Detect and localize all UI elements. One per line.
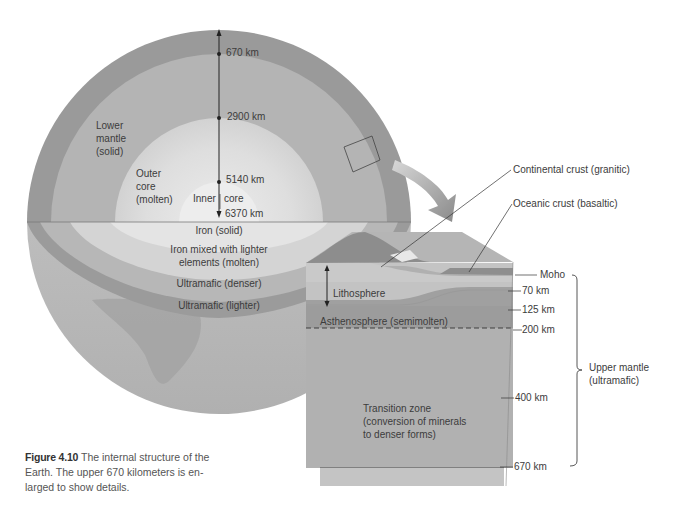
upper-mantle-line1: Upper mantle — [589, 361, 649, 374]
caption-line2: Earth. The upper 670 kilometers is en- — [25, 466, 203, 478]
inner-core-label-right: core — [224, 193, 243, 205]
iron-mixed-label-line1: Iron mixed with lighter — [159, 244, 279, 256]
iron-mixed-label-line2: elements (molten) — [159, 257, 279, 269]
transition-zone-line2: (conversion of minerals — [363, 415, 466, 428]
depth-70-label: 70 km — [522, 285, 549, 297]
caption-line3: larged to show details. — [25, 481, 129, 493]
transition-zone-line3: to denser forms) — [363, 428, 466, 441]
moho-label: Moho — [540, 269, 565, 281]
depth-label-670: 670 km — [226, 47, 259, 59]
transition-zone-line1: Transition zone — [363, 402, 466, 415]
depth-670-label: 670 km — [514, 461, 547, 473]
lower-mantle-line2: mantle — [96, 132, 126, 145]
figure-number: Figure 4.10 — [25, 451, 78, 463]
continental-crust-label: Continental crust (granitic) — [513, 164, 630, 176]
outer-core-label: Outer core (molten) — [136, 167, 173, 206]
lower-mantle-label: Lower mantle (solid) — [96, 119, 126, 158]
outer-core-line3: (molten) — [136, 193, 173, 206]
iron-solid-label: Iron (solid) — [169, 225, 269, 237]
oceanic-crust-label: Oceanic crust (basaltic) — [513, 198, 617, 210]
lithosphere-label: Lithosphere — [333, 288, 385, 300]
inner-core-label-left: Inner — [193, 193, 216, 205]
upper-mantle-label: Upper mantle (ultramafic) — [589, 361, 649, 387]
ultramafic-denser-label: Ultramafic (denser) — [159, 278, 279, 290]
depth-label-5140: 5140 km — [226, 174, 264, 186]
depth-label-2900: 2900 km — [227, 111, 265, 123]
outer-core-line2: core — [136, 180, 173, 193]
upper-mantle-line2: (ultramafic) — [589, 374, 649, 387]
earth-structure-diagram — [0, 0, 674, 512]
figure-caption: Figure 4.10 The internal structure of th… — [25, 450, 215, 495]
caption-line1: The internal structure of the — [78, 451, 209, 463]
transition-zone-label: Transition zone (conversion of minerals … — [363, 402, 466, 441]
lower-mantle-line3: (solid) — [96, 145, 126, 158]
outer-core-line1: Outer — [136, 167, 173, 180]
depth-label-6370: 6370 km — [225, 208, 263, 220]
crust-block — [306, 232, 513, 486]
upper-mantle-bracket — [570, 275, 582, 466]
depth-200-label: 200 km — [522, 324, 555, 336]
ultramafic-lighter-label: Ultramafic (lighter) — [159, 300, 279, 312]
depth-125-label: 125 km — [522, 304, 555, 316]
lower-mantle-line1: Lower — [96, 119, 126, 132]
depth-400-label: 400 km — [515, 392, 548, 404]
asthenosphere-label: Asthenosphere (semimolten) — [320, 316, 448, 328]
